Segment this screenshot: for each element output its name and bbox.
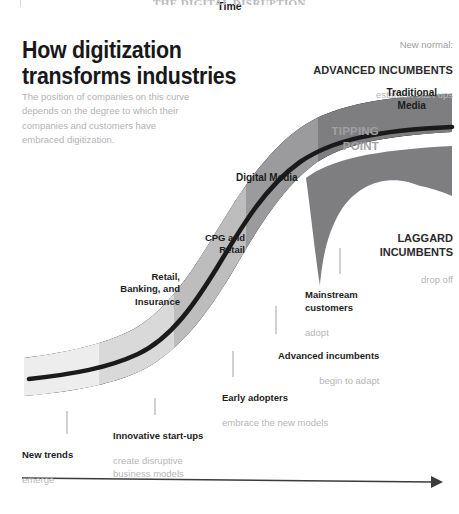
innovative-sub: create disruptive business models <box>113 455 203 480</box>
time-axis <box>22 476 443 488</box>
axis-arrow-icon <box>431 476 443 488</box>
annotation-cpg-retail: CPG and Retail <box>185 232 245 257</box>
laggard-caption: LAGGARD INCUMBENTS <box>380 232 453 259</box>
annotation-early-adopters: Early adopters embrace the new models <box>222 380 328 442</box>
laggard-sub: drop off <box>380 273 453 286</box>
mainstream-title: Mainstream customers <box>305 289 358 314</box>
annotation-new-trends: New trends emerge <box>22 437 73 499</box>
annotation-retail-banking-insurance: Retail, Banking, and Insurance <box>70 271 180 308</box>
annotation-digital-media: Digital Media <box>236 172 298 183</box>
advanced-title: Advanced incumbents <box>278 350 379 362</box>
annotation-traditional-media: Traditional Media <box>386 86 437 112</box>
early-adopters-title: Early adopters <box>222 392 328 404</box>
annotation-laggard-incumbents: LAGGARD INCUMBENTS drop off <box>380 219 453 299</box>
new-trends-sub: emerge <box>22 474 73 486</box>
annotation-tipping-point: TIPPING POINT <box>332 124 379 153</box>
new-normal-pre: New normal: <box>313 39 453 52</box>
annotation-innovative-startups: Innovative start-ups create disruptive b… <box>113 418 203 492</box>
new-trends-title: New trends <box>22 449 73 461</box>
infographic-canvas: THE DIGITAL DISRUPTION How digitization … <box>0 0 459 514</box>
early-adopters-sub: embrace the new models <box>222 417 328 429</box>
innovative-title: Innovative start-ups <box>113 430 203 442</box>
new-normal-caption: ADVANCED INCUMBENTS <box>313 64 453 77</box>
